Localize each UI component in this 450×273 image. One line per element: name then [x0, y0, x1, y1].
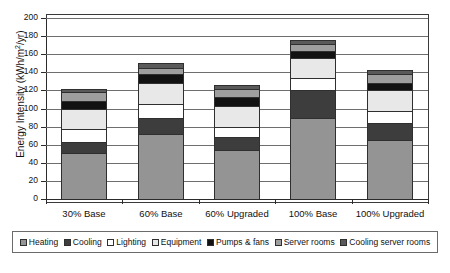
y-tick-label-180: 180: [0, 31, 38, 40]
x-tick-2: [199, 199, 200, 204]
legend-label: Server rooms: [284, 238, 335, 247]
y-tick-label-0: 0: [0, 194, 38, 203]
y-tick-label-200: 200: [0, 13, 38, 22]
legend-label: Lighting: [116, 238, 146, 247]
bar-stack: [290, 40, 336, 199]
legend-label: Cooling server rooms: [349, 238, 430, 247]
energy-intensity-stacked-bar-chart: Energy Intensity (kWh/m2/yr) 02040608010…: [0, 0, 450, 273]
bar-segment-lighting[interactable]: [138, 104, 184, 118]
bar-segment-cooling[interactable]: [367, 123, 413, 140]
plot-area: [46, 18, 427, 199]
legend-label: Heating: [29, 238, 58, 247]
bar-segment-equipment[interactable]: [214, 106, 260, 127]
legend-item-pumps-fans[interactable]: Pumps & fans: [207, 238, 269, 247]
legend-swatch-icon: [340, 239, 347, 246]
bar-group-60-base[interactable]: [138, 63, 184, 199]
legend-label: Cooling: [73, 238, 102, 247]
bar-segment-pumps-fans[interactable]: [214, 97, 260, 106]
x-tick-3: [275, 199, 276, 204]
bar-segment-lighting[interactable]: [290, 78, 336, 91]
x-tick-5: [428, 199, 429, 204]
legend-swatch-icon: [275, 239, 282, 246]
bar-segment-equipment[interactable]: [61, 109, 107, 130]
bar-stack: [367, 70, 413, 199]
y-tick-label-100: 100: [0, 104, 38, 113]
bar-segment-equipment[interactable]: [367, 90, 413, 111]
bar-segment-lighting[interactable]: [61, 129, 107, 142]
legend-swatch-icon: [152, 239, 159, 246]
bar-segment-cooling[interactable]: [214, 137, 260, 150]
bar-segment-pumps-fans[interactable]: [290, 51, 336, 58]
legend-swatch-icon: [107, 239, 114, 246]
bar-segment-equipment[interactable]: [138, 83, 184, 104]
y-tick-label-60: 60: [0, 140, 38, 149]
bar-group-30-base[interactable]: [61, 89, 107, 199]
bar-group-100-upgraded[interactable]: [367, 70, 413, 199]
legend-label: Equipment: [161, 238, 202, 247]
bar-segment-heating[interactable]: [138, 134, 184, 199]
x-tick-1: [122, 199, 123, 204]
legend-swatch-icon: [207, 239, 214, 246]
legend-item-heating[interactable]: Heating: [20, 238, 58, 247]
bar-segment-heating[interactable]: [61, 153, 107, 199]
legend-item-server-rooms[interactable]: Server rooms: [275, 238, 335, 247]
bar-segment-cooling[interactable]: [138, 118, 184, 134]
bar-segment-cooling[interactable]: [290, 90, 336, 118]
legend-item-lighting[interactable]: Lighting: [107, 238, 146, 247]
x-tick-4: [352, 199, 353, 204]
legend-item-equipment[interactable]: Equipment: [152, 238, 202, 247]
chart-legend: HeatingCoolingLightingEquipmentPumps & f…: [12, 231, 438, 253]
bar-segment-server-rooms[interactable]: [367, 74, 413, 83]
y-tick-label-140: 140: [0, 67, 38, 76]
legend-swatch-icon: [20, 239, 27, 246]
bar-stack: [214, 85, 260, 199]
bar-segment-pumps-fans[interactable]: [138, 74, 184, 83]
bar-group-60-upgraded[interactable]: [214, 85, 260, 199]
bar-segment-lighting[interactable]: [367, 111, 413, 123]
bar-segment-pumps-fans[interactable]: [61, 101, 107, 108]
bar-segment-equipment[interactable]: [290, 58, 336, 78]
y-tick-label-40: 40: [0, 158, 38, 167]
legend-item-cooling-server-rooms[interactable]: Cooling server rooms: [340, 238, 430, 247]
bar-segment-heating[interactable]: [214, 150, 260, 199]
y-tick-label-160: 160: [0, 49, 38, 58]
y-tick-label-20: 20: [0, 176, 38, 185]
legend-item-cooling[interactable]: Cooling: [64, 238, 102, 247]
bar-stack: [61, 89, 107, 199]
legend-swatch-icon: [64, 239, 71, 246]
y-tick-label-120: 120: [0, 85, 38, 94]
y-tick-label-80: 80: [0, 122, 38, 131]
bar-segment-server-rooms[interactable]: [214, 89, 260, 97]
x-tick-0: [46, 199, 47, 204]
bar-segment-cooling[interactable]: [61, 142, 107, 153]
bar-group-100-base[interactable]: [290, 40, 336, 199]
bar-segment-lighting[interactable]: [214, 127, 260, 138]
bar-stack: [138, 63, 184, 199]
legend-label: Pumps & fans: [216, 238, 269, 247]
gridline-0: [46, 199, 428, 200]
bar-segment-heating[interactable]: [367, 140, 413, 199]
bar-segment-pumps-fans[interactable]: [367, 83, 413, 90]
bar-segment-heating[interactable]: [290, 118, 336, 199]
bar-segment-server-rooms[interactable]: [61, 92, 107, 101]
x-tick-label-100-upgraded: 100% Upgraded: [342, 208, 438, 219]
